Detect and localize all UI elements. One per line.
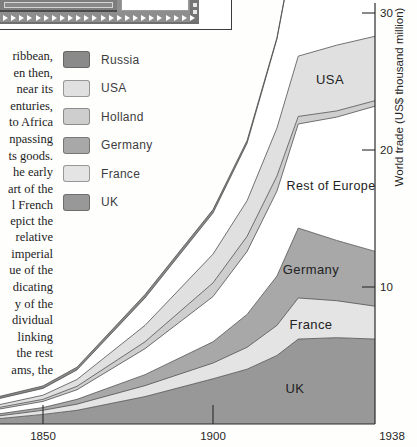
body-text-line: to Africa	[0, 115, 53, 129]
triangle-motif-icon	[117, 15, 122, 21]
legend-label: Russia	[101, 53, 139, 67]
legend-item-france: France	[63, 165, 140, 182]
legend-label: Holland	[101, 110, 144, 124]
legend-item-germany: Germany	[63, 137, 152, 154]
body-text-line: he early	[0, 165, 53, 179]
triangle-motif-icon	[11, 15, 16, 21]
body-text-line: imperial	[0, 247, 53, 261]
triangle-motif-icon	[3, 15, 8, 21]
y-axis-tick-label: 10	[380, 281, 393, 293]
body-text-line: en then,	[0, 66, 53, 80]
area-label-uk: UK	[286, 381, 305, 396]
book-page-scan: { "left_text": { "para1_lines": ["ribbea…	[0, 0, 417, 447]
triangle-motif-icon	[76, 15, 81, 21]
body-text-line: epict the	[0, 214, 53, 228]
body-text-line: ts goods.	[0, 149, 53, 163]
body-text-line: npassing	[0, 132, 53, 146]
area-label-germany: Germany	[283, 262, 339, 277]
body-text-line: l French	[0, 198, 53, 212]
picture-white-panel	[121, 0, 189, 11]
triangle-motif-icon	[141, 15, 146, 21]
body-text-line: near its	[0, 82, 53, 96]
legend-swatch	[63, 51, 90, 68]
x-axis-tick-label: 1900	[200, 430, 226, 442]
area-label-france: France	[290, 317, 333, 332]
triangle-motif-icon	[52, 15, 57, 21]
legend-label: UK	[101, 195, 118, 209]
triangle-motif-icon	[133, 15, 138, 21]
body-text-line: the rest	[0, 346, 53, 360]
x-axis-tick-label: 1850	[30, 430, 56, 442]
body-text-line: dividual	[0, 313, 53, 327]
legend-item-usa: USA	[63, 80, 127, 97]
triangle-motif-icon	[84, 15, 89, 21]
legend-label: France	[101, 167, 140, 181]
framed-picture-fragment	[0, 0, 232, 30]
y-axis-tick-label: 20	[380, 144, 393, 156]
triangle-motif-icon	[27, 15, 32, 21]
picture-inner-frame-lining	[4, 2, 113, 8]
triangle-motif-icon	[44, 15, 49, 21]
body-text-line: ribbean,	[0, 49, 53, 63]
body-text-column: ribbean,en then,near itsenturies,to Afri…	[0, 0, 53, 400]
triangle-motif-icon	[36, 15, 41, 21]
picture-border-band	[0, 0, 199, 24]
area-label-usa: USA	[316, 72, 344, 87]
legend-swatch	[63, 194, 90, 211]
triangle-motif-icon	[68, 15, 73, 21]
body-text-line: relative	[0, 230, 53, 244]
body-text-line: enturies,	[0, 99, 53, 113]
triangle-motif-icon	[149, 15, 154, 21]
triangle-motif-icon	[92, 15, 97, 21]
legend-swatch	[63, 108, 90, 125]
triangle-motif-icon	[109, 15, 114, 21]
picture-inner-frame	[0, 0, 117, 12]
body-text-line: ue of the	[0, 263, 53, 277]
legend-item-russia: Russia	[63, 51, 139, 68]
body-text-line: art of the	[0, 182, 53, 196]
legend-item-uk: UK	[63, 194, 118, 211]
legend-label: Germany	[101, 138, 152, 152]
triangle-motif-icon	[19, 15, 24, 21]
body-text-line: ams, the	[0, 363, 53, 377]
legend-swatch	[63, 137, 90, 154]
body-text-line: dicating	[0, 280, 53, 294]
triangle-motif-icon	[166, 15, 171, 21]
triangle-motif-icon	[125, 15, 130, 21]
y-axis-tick-label: 30	[380, 7, 393, 19]
body-text-line: linking	[0, 330, 53, 344]
triangle-motif-icon	[101, 15, 106, 21]
legend-item-holland: Holland	[63, 108, 144, 125]
legend-swatch	[63, 80, 90, 97]
x-axis-tick-label: 1938	[379, 430, 405, 442]
legend-swatch	[63, 165, 90, 182]
triangle-motif-icon	[157, 15, 162, 21]
triangle-motif-icon	[182, 15, 187, 21]
triangle-motif-icon	[190, 15, 195, 21]
area-label-rest-of-europe: Rest of Europe	[287, 179, 376, 193]
triangle-motif-icon	[60, 15, 65, 21]
triangle-motif-icon	[174, 15, 179, 21]
body-text-line: y of the	[0, 297, 53, 311]
y-axis-title: World trade (US$ thousand million)	[393, 7, 405, 186]
legend-label: USA	[101, 81, 127, 95]
triangle-motif-row	[3, 13, 195, 22]
